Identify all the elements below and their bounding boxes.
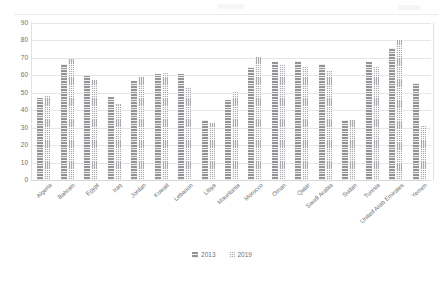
y-tick-label-0: 0 bbox=[6, 177, 28, 184]
bar-2013[interactable] bbox=[37, 98, 43, 180]
x-tick-label: Iraq bbox=[111, 182, 123, 193]
x-tick-label: Yemen bbox=[411, 182, 429, 199]
legend-swatch-icon bbox=[229, 252, 235, 258]
bar-group[interactable] bbox=[55, 23, 78, 180]
bar-chart: 9080706050403020100 AlgeriaBahrainEgyptI… bbox=[0, 0, 444, 286]
bar-2019[interactable] bbox=[373, 66, 379, 180]
bar-2013[interactable] bbox=[131, 81, 137, 180]
bar-group[interactable] bbox=[79, 23, 102, 180]
bar-group[interactable] bbox=[290, 23, 313, 180]
bar-group[interactable] bbox=[361, 23, 384, 180]
bar-2019[interactable] bbox=[115, 104, 121, 180]
x-tick-label: Morocco bbox=[243, 182, 264, 202]
bar-2013[interactable] bbox=[389, 48, 395, 180]
bar-2013[interactable] bbox=[61, 64, 67, 180]
bar-group[interactable] bbox=[149, 23, 172, 180]
bar-group[interactable] bbox=[384, 23, 407, 180]
bar-2019[interactable] bbox=[302, 67, 308, 180]
bar-series-container bbox=[32, 23, 431, 180]
x-tick-label: Egypt bbox=[84, 182, 99, 197]
x-tick-label: Sudan bbox=[341, 182, 358, 198]
bar-2019[interactable] bbox=[44, 95, 50, 180]
x-tick-label: Tunisia bbox=[363, 182, 381, 199]
bar-2013[interactable] bbox=[155, 74, 161, 180]
x-tick-label: Lebanon bbox=[172, 182, 193, 202]
bar-2013[interactable] bbox=[225, 100, 231, 180]
y-tick-label-40: 40 bbox=[6, 107, 28, 114]
bar-group[interactable] bbox=[196, 23, 219, 180]
y-tick-label-30: 30 bbox=[6, 125, 28, 132]
x-tick-label: Libya bbox=[202, 182, 217, 196]
bar-2013[interactable] bbox=[413, 83, 419, 180]
x-tick-label: Qatar bbox=[296, 182, 311, 197]
x-tick-label: Oman bbox=[271, 182, 287, 197]
legend-label: 2019 bbox=[238, 252, 252, 259]
y-tick-label-60: 60 bbox=[6, 72, 28, 79]
bar-2019[interactable] bbox=[326, 71, 332, 180]
x-tick-label: Kuwait bbox=[153, 182, 170, 199]
bar-2019[interactable] bbox=[279, 64, 285, 180]
bar-2019[interactable] bbox=[255, 57, 261, 180]
bar-2013[interactable] bbox=[178, 74, 184, 180]
bar-group[interactable] bbox=[102, 23, 125, 180]
bar-2019[interactable] bbox=[68, 59, 74, 180]
bar-2019[interactable] bbox=[396, 40, 402, 180]
bar-group[interactable] bbox=[243, 23, 266, 180]
bar-2013[interactable] bbox=[84, 76, 90, 180]
legend-swatch-icon bbox=[192, 252, 198, 258]
gridline-0 bbox=[32, 180, 431, 181]
bar-group[interactable] bbox=[267, 23, 290, 180]
bar-2019[interactable] bbox=[209, 123, 215, 180]
top-artifact-left bbox=[218, 4, 244, 9]
bar-group[interactable] bbox=[126, 23, 149, 180]
bar-2013[interactable] bbox=[248, 67, 254, 180]
bar-group[interactable] bbox=[337, 23, 360, 180]
bar-group[interactable] bbox=[220, 23, 243, 180]
bar-group[interactable] bbox=[173, 23, 196, 180]
top-artifact-right bbox=[398, 5, 420, 10]
y-tick-label-10: 10 bbox=[6, 160, 28, 167]
legend-item-2013[interactable]: 2013 bbox=[192, 252, 215, 259]
chart-legend: 20132019 bbox=[0, 252, 444, 259]
bar-group[interactable] bbox=[314, 23, 337, 180]
plot-area bbox=[32, 23, 431, 180]
bar-2013[interactable] bbox=[319, 64, 325, 180]
x-axis: AlgeriaBahrainEgyptIraqJordanKuwaitLeban… bbox=[32, 182, 431, 240]
x-tick-label: Algeria bbox=[35, 182, 53, 199]
bar-2019[interactable] bbox=[185, 87, 191, 180]
bar-group[interactable] bbox=[408, 23, 431, 180]
legend-label: 2013 bbox=[201, 252, 215, 259]
x-tick-label: Bahrain bbox=[57, 182, 76, 200]
legend-item-2019[interactable]: 2019 bbox=[229, 252, 252, 259]
bar-2019[interactable] bbox=[138, 76, 144, 180]
bar-2013[interactable] bbox=[108, 97, 114, 180]
y-tick-label-50: 50 bbox=[6, 90, 28, 97]
bar-2019[interactable] bbox=[91, 80, 97, 180]
bar-2019[interactable] bbox=[349, 120, 355, 180]
bar-2013[interactable] bbox=[295, 61, 301, 180]
bar-group[interactable] bbox=[32, 23, 55, 180]
bar-2019[interactable] bbox=[162, 73, 168, 180]
bar-2013[interactable] bbox=[202, 120, 208, 180]
bar-2019[interactable] bbox=[232, 92, 238, 180]
bar-2013[interactable] bbox=[272, 62, 278, 180]
y-axis: 9080706050403020100 bbox=[4, 23, 28, 180]
bar-2019[interactable] bbox=[420, 126, 426, 180]
y-tick-label-80: 80 bbox=[6, 37, 28, 44]
y-tick-label-20: 20 bbox=[6, 142, 28, 149]
x-tick-label: United Arab Emirates bbox=[359, 182, 405, 224]
x-tick-label: Mauritania bbox=[216, 182, 241, 205]
x-tick-label: Jordan bbox=[129, 182, 147, 199]
y-tick-label-90: 90 bbox=[6, 20, 28, 27]
bar-2013[interactable] bbox=[366, 62, 372, 180]
bar-2013[interactable] bbox=[342, 120, 348, 180]
top-divider bbox=[14, 14, 438, 15]
y-tick-label-70: 70 bbox=[6, 55, 28, 62]
